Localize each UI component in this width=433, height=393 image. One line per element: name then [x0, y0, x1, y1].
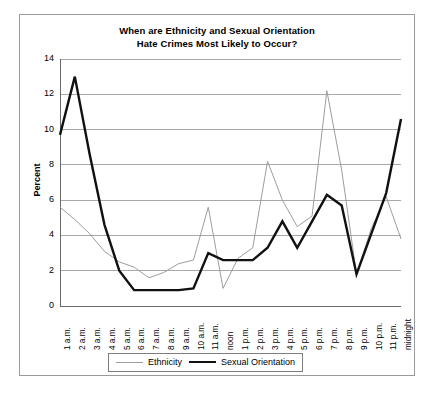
legend-item-ethnicity: Ethnicity: [116, 357, 182, 367]
axis-lines: [60, 59, 401, 306]
chart-legend: Ethnicity Sexual Orientation: [108, 353, 303, 372]
chart-figure: When are Ethnicity and Sexual Orientatio…: [19, 14, 415, 376]
gridlines: [60, 59, 401, 306]
legend-swatch-ethnicity-icon: [116, 362, 143, 363]
series-line: [60, 91, 401, 289]
data-series-layer: [60, 77, 401, 290]
plot-area: [20, 15, 416, 377]
legend-item-sexual-orientation: Sexual Orientation: [189, 357, 295, 367]
legend-label-sexual-orientation: Sexual Orientation: [221, 357, 295, 367]
series-line: [60, 77, 401, 290]
legend-label-ethnicity: Ethnicity: [148, 357, 182, 367]
legend-swatch-sexual-orientation-icon: [189, 361, 216, 363]
